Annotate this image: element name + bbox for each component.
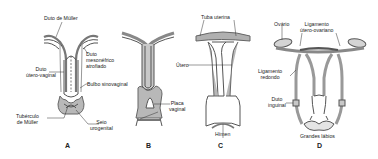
label-himen: Hímen — [215, 131, 230, 137]
label-ovario: Ovário — [274, 21, 289, 27]
label-ligamento-utero-ovariano-line2: útero-ovariano — [300, 27, 333, 33]
label-duto-utero-vaginal-line2: útero-vaginal — [26, 72, 56, 78]
label-duto-inguinal: Duto inguinal — [268, 96, 286, 108]
label-ligamento-utero-ovariano: Ligamento útero-ovariano — [300, 21, 333, 33]
label-duto-mesonefrico: Duto mesonéfrico atrofiado — [86, 51, 114, 69]
panel-label-d: D — [317, 142, 322, 149]
label-bulbo-sinovaginal: Bulbo sinovaginal — [87, 81, 128, 87]
label-ligamento-redondo-line2: redondo — [258, 74, 282, 80]
label-duto-utero-vaginal: Duto útero-vaginal — [26, 66, 56, 78]
label-seio-urogenital: Seio urogenital — [90, 119, 113, 131]
label-tuberculo-muller: Tubérculo de Müller — [16, 113, 39, 125]
label-placa-vaginal-line2: vaginal — [169, 106, 185, 112]
panel-label-a: A — [65, 142, 70, 149]
label-tuberculo-muller-line2: de Müller — [16, 119, 39, 125]
label-tuba-uterina: Tuba uterina — [201, 14, 230, 20]
label-grandes-labios: Grandes lábios — [300, 133, 335, 139]
label-utero: Útero — [176, 62, 189, 68]
panel-c-drawing — [196, 32, 250, 128]
label-ligamento-redondo: Ligamento redondo — [258, 68, 282, 80]
label-duto-muller: Duto de Müller — [44, 15, 78, 21]
panel-label-c: C — [218, 142, 223, 149]
panel-label-b: B — [146, 142, 151, 149]
label-duto-mesonefrico-line3: atrofiado — [86, 63, 114, 69]
label-placa-vaginal: Placa vaginal — [169, 100, 185, 112]
panel-d-drawing — [273, 37, 366, 130]
label-seio-urogenital-line2: urogenital — [90, 125, 113, 131]
panel-b-drawing — [122, 33, 174, 126]
label-duto-inguinal-line2: inguinal — [268, 102, 286, 108]
